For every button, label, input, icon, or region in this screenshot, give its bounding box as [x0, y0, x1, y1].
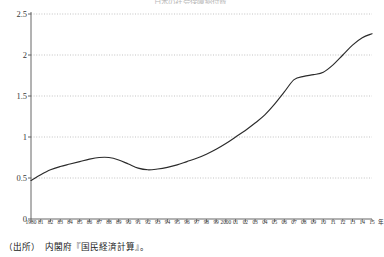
data-series-line: [31, 34, 372, 181]
y-tick-label: 1.5: [16, 92, 27, 101]
y-tick-label: 1: [23, 133, 27, 142]
y-tick-label: 2: [23, 51, 27, 60]
x-tick-label: 11: [330, 220, 335, 225]
y-tick-label: 0.5: [16, 174, 27, 183]
x-tick-label: 01: [233, 220, 238, 225]
x-tick-label: 89: [116, 220, 121, 225]
x-tick-label: 97: [194, 220, 199, 225]
x-tick-label: 82: [48, 220, 53, 225]
x-tick-label: 91: [135, 220, 140, 225]
x-tick-label: 03: [252, 220, 257, 225]
x-tick-label: 05: [272, 220, 277, 225]
y-tick-label: 2.5: [16, 10, 27, 19]
x-tick-label: 2000: [220, 220, 231, 225]
x-tick-label: 88: [106, 220, 111, 225]
source-note: （出所） 内閣府『国民経済計算』。: [4, 240, 149, 252]
x-tick-label: 93: [155, 220, 160, 225]
x-tick-label: 14: [360, 220, 365, 225]
x-axis-unit-label: 年: [378, 220, 384, 226]
x-tick-label: 90: [126, 220, 131, 225]
x-tick-label: 06: [282, 220, 287, 225]
x-tick-label: 1980: [26, 220, 37, 225]
x-tick-label: 07: [291, 220, 296, 225]
x-tick-label: 84: [67, 220, 72, 225]
chart-plot-area: 00.511.522.5 198081828384858687888990919…: [0, 0, 380, 236]
x-tick-label: 08: [301, 220, 306, 225]
x-tick-label: 85: [77, 220, 82, 225]
x-tick-label: 81: [38, 220, 43, 225]
x-tick-label: 12: [340, 220, 345, 225]
y-axis-labels: 00.511.522.5: [0, 0, 30, 236]
line-chart-svg: [0, 0, 380, 236]
x-tick-label: 15: [369, 220, 374, 225]
x-tick-label: 92: [145, 220, 150, 225]
x-tick-label: 98: [204, 220, 209, 225]
x-tick-label: 09: [311, 220, 316, 225]
x-tick-label: 96: [184, 220, 189, 225]
x-tick-label: 94: [165, 220, 170, 225]
x-tick-label: 95: [174, 220, 179, 225]
x-tick-label: 04: [262, 220, 267, 225]
x-axis-labels: 1980818283848586878889909192939495969798…: [0, 220, 380, 234]
x-tick-label: 13: [350, 220, 355, 225]
x-tick-label: 87: [96, 220, 101, 225]
x-tick-label: 02: [243, 220, 248, 225]
x-tick-label: 10: [321, 220, 326, 225]
x-tick-label: 83: [58, 220, 63, 225]
x-tick-label: 99: [213, 220, 218, 225]
x-tick-label: 86: [87, 220, 92, 225]
